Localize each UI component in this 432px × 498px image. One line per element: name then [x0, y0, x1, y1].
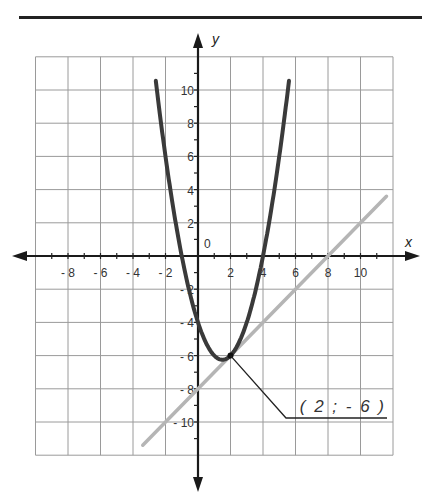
x-tick-label: 6 — [292, 266, 299, 280]
y-tick-label: - 4 — [180, 316, 194, 330]
origin-label: 0 — [204, 237, 211, 251]
x-tick-label: 10 — [354, 266, 368, 280]
y-tick-label: 2 — [187, 217, 194, 231]
x-tick-label: - 4 — [126, 266, 140, 280]
x-tick-label: 8 — [325, 266, 332, 280]
x-axis-arrow-left-icon — [12, 251, 27, 261]
x-axis-label: x — [404, 234, 413, 250]
y-axis-arrow-down-icon — [193, 477, 203, 492]
y-axis-arrow-up-icon — [193, 33, 203, 48]
x-tick-label: - 6 — [93, 266, 107, 280]
x-tick-label: - 8 — [61, 266, 75, 280]
y-tick-label: 6 — [187, 150, 194, 164]
y-axis-label: y — [211, 31, 220, 47]
annotation: ( 2 ; - 6 ) — [228, 353, 388, 418]
y-tick-label: 10 — [181, 84, 195, 98]
axes: yx — [12, 31, 420, 492]
y-tick-label: 4 — [187, 184, 194, 198]
y-tick-label: 8 — [187, 117, 194, 131]
chart: yx - 8- 6- 4- 2246810108642- 2- 4- 6- 8-… — [0, 0, 432, 498]
x-tick-label: 2 — [227, 266, 234, 280]
x-tick-label: - 2 — [158, 266, 172, 280]
point-label: ( 2 ; - 6 ) — [300, 397, 386, 416]
y-tick-label: - 10 — [173, 416, 194, 430]
x-axis-arrow-right-icon — [405, 251, 420, 261]
y-tick-label: - 6 — [180, 350, 194, 364]
